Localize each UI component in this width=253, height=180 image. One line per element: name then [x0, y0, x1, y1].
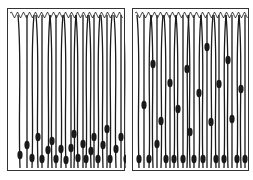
cell-process — [137, 15, 139, 168]
cell-nucleus — [49, 137, 54, 145]
cell-nucleus — [187, 128, 192, 136]
cell-nucleus — [75, 154, 80, 162]
cell-nucleus — [234, 155, 239, 163]
cell-process — [237, 15, 239, 168]
cell-nucleus — [68, 144, 73, 152]
cell-nucleus — [242, 155, 247, 163]
cell-nucleus — [63, 156, 68, 164]
cell-process — [36, 15, 38, 168]
cell-nucleus — [39, 155, 44, 163]
cell-process — [98, 15, 100, 168]
cell-nucleus — [150, 60, 155, 68]
cell-nucleus — [204, 43, 209, 51]
cell-nucleus — [118, 133, 123, 141]
cell-nucleus — [136, 155, 141, 163]
cell-nucleus — [24, 141, 29, 149]
cell-nucleus — [221, 155, 226, 163]
cell-process — [164, 15, 166, 168]
cell-nucleus — [83, 155, 88, 163]
cell-nucleus — [29, 154, 34, 162]
cell-nucleus — [17, 151, 22, 159]
cell-nucleus — [35, 133, 40, 141]
cell-process — [226, 15, 228, 168]
cell-nucleus — [225, 56, 230, 64]
cell-nucleus — [216, 80, 221, 88]
cell-process — [161, 15, 163, 168]
cell-nucleus — [208, 118, 213, 126]
cell-process — [48, 15, 50, 168]
cell-nucleus — [95, 155, 100, 163]
cell-process — [18, 15, 20, 168]
cell-apical-fringe — [135, 12, 248, 18]
cell-nucleus — [53, 155, 58, 163]
cell-nucleus — [113, 145, 118, 153]
cell-nucleus — [58, 145, 63, 153]
cell-nucleus — [71, 130, 76, 138]
cell-process — [89, 15, 91, 168]
cell-process — [176, 15, 178, 168]
cell-drawing-right — [133, 9, 250, 172]
cell-nucleus — [146, 155, 151, 163]
panel-right: Nuclei distributed throughout the height — [132, 8, 249, 171]
cell-nucleus — [80, 140, 85, 148]
cell-nucleus — [167, 79, 172, 87]
cell-drawing-left — [8, 9, 126, 172]
cell-nucleus — [141, 101, 146, 109]
cell-nucleus — [107, 155, 112, 163]
cell-nucleus — [91, 133, 96, 141]
cell-nucleus — [200, 155, 205, 163]
cell-nucleus — [88, 147, 93, 155]
cell-process — [174, 15, 176, 168]
cell-process — [64, 15, 66, 168]
cell-nucleus — [180, 155, 185, 163]
cell-nucleus — [184, 65, 189, 73]
cell-process — [76, 15, 78, 168]
cell-nucleus — [104, 125, 109, 133]
cell-process — [32, 15, 34, 168]
cell-process — [149, 15, 151, 168]
cell-process — [211, 15, 213, 168]
cell-process — [110, 15, 112, 168]
cell-nucleus — [171, 155, 176, 163]
cell-nucleus — [191, 155, 196, 163]
cell-nucleus — [45, 146, 50, 154]
cell-process — [74, 15, 76, 168]
cell-nucleus — [229, 115, 234, 123]
cell-nucleus — [163, 155, 168, 163]
panel-left: Nuclei clustered near the bottom — [7, 8, 125, 171]
cell-process — [151, 15, 153, 168]
cell-nucleus — [154, 140, 159, 148]
cell-nucleus — [196, 89, 201, 97]
cell-nucleus — [213, 155, 218, 163]
cell-nucleus — [175, 105, 180, 113]
cell-nucleus — [100, 141, 105, 149]
cell-nucleus — [238, 85, 243, 93]
cell-process — [224, 15, 226, 168]
cell-nucleus — [158, 117, 163, 125]
cell-nucleus — [123, 155, 126, 163]
cell-process — [214, 15, 216, 168]
cell-process — [86, 15, 88, 168]
